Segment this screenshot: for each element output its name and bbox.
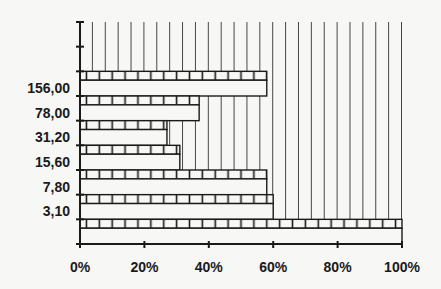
category-label: 7,80 xyxy=(43,179,70,195)
bar-brick-segment-8 xyxy=(80,219,402,228)
bar-brick-segment-6 xyxy=(80,170,267,179)
bar-3 xyxy=(80,105,199,121)
bar-brick-segment-3 xyxy=(80,96,199,105)
bar-brick-segment-5 xyxy=(80,145,180,154)
bar-brick-segment-2 xyxy=(80,71,267,80)
bar-8 xyxy=(80,228,402,244)
x-tick-label: 20% xyxy=(130,259,159,275)
x-tick-label: 100% xyxy=(384,259,420,275)
bar-brick-segment-4 xyxy=(80,121,167,130)
bars-group xyxy=(80,22,402,244)
category-label: 15,60 xyxy=(35,154,70,170)
x-tick-label: 60% xyxy=(259,259,288,275)
bar-2 xyxy=(80,80,267,96)
x-tick-label: 40% xyxy=(195,259,224,275)
category-label: 156,00 xyxy=(27,80,70,96)
bar-7 xyxy=(80,204,273,220)
bar-5 xyxy=(80,154,180,170)
category-label: 31,20 xyxy=(35,129,70,145)
bar-brick-segment-7 xyxy=(80,195,273,204)
bar-6 xyxy=(80,179,267,195)
x-tick-label: 80% xyxy=(324,259,353,275)
category-label: 78,00 xyxy=(35,105,70,121)
bar-4 xyxy=(80,130,167,146)
x-tick-label: 0% xyxy=(70,259,91,275)
stacked-bar-chart: 0%20%40%60%80%100%156,0078,0031,2015,607… xyxy=(0,0,441,289)
category-label: 3,10 xyxy=(43,203,70,219)
